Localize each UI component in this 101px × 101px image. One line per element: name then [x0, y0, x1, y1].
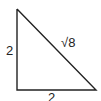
hypotenuse-label: √8	[61, 36, 75, 49]
triangle-diagram: 2 2 √8	[0, 0, 101, 101]
bottom-side-label: 2	[48, 91, 55, 101]
left-side-label: 2	[6, 44, 13, 57]
right-triangle-shape	[0, 0, 101, 101]
